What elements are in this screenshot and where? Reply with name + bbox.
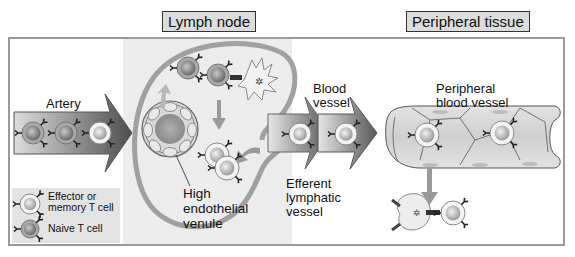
dendritic-cell: ✲ — [230, 58, 278, 100]
legend-naive-label: Naive T cell — [48, 223, 102, 234]
t-cell-tissue — [434, 198, 468, 228]
hev-label-2: endothelial — [183, 202, 248, 216]
high-endothelial-venule — [142, 84, 198, 186]
svg-text:✲: ✲ — [413, 208, 421, 218]
blood-vessel-label-1: Blood — [313, 82, 346, 96]
efferent-label-3: vessel — [286, 205, 323, 219]
peripheral-blood-vessel — [386, 106, 561, 168]
hev-label-1: High — [183, 187, 211, 201]
peripheral-blood-vessel-label-1: Peripheral — [436, 82, 495, 96]
effector-t-cell-icon — [13, 190, 44, 217]
blood-vessel-label-2: vessel — [313, 96, 350, 110]
t-cell-node-2 — [200, 61, 232, 90]
svg-text:✲: ✲ — [255, 76, 263, 87]
legend: Effector or memory T cell Naive T cell — [12, 188, 120, 243]
artery-label: Artery — [46, 97, 81, 111]
legend-effector-label-2: memory T cell — [48, 202, 114, 213]
naive-t-cell-icon — [14, 216, 43, 242]
hev-label-3: venule — [183, 217, 223, 231]
legend-naive-cell — [14, 216, 43, 242]
peripheral-blood-vessel-label-2: blood vessel — [436, 96, 508, 110]
legend-effector-cell — [13, 190, 44, 217]
efferent-label-2: lymphatic — [286, 191, 341, 205]
efferent-label-1: Efferent — [286, 177, 331, 191]
